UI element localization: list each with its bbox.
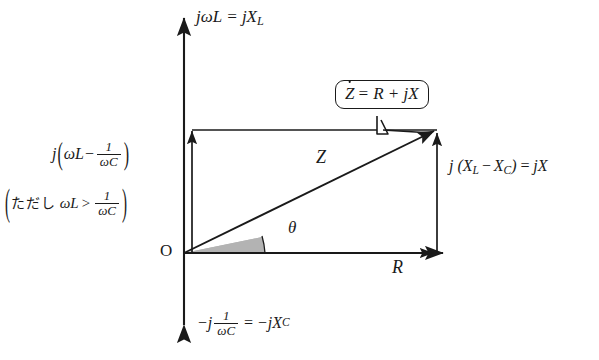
subscript-l: L xyxy=(257,14,264,28)
angle-wedge-hypotenuse-shading xyxy=(184,237,265,253)
xc-symbol: X xyxy=(494,157,504,174)
negative-j-symbol: −j xyxy=(197,315,212,331)
impedance-equation-callout: Z= R + jX xyxy=(335,80,429,109)
subscript-c-2: C xyxy=(282,317,290,329)
j-prefix: j xyxy=(52,146,56,162)
resistance-label: R xyxy=(392,258,403,276)
impedance-vector-arrow xyxy=(184,131,434,253)
impedance-magnitude-label: Z xyxy=(316,148,326,166)
callout-z-symbol: Z xyxy=(345,84,354,103)
subscript-l-2: L xyxy=(473,164,479,176)
reciprocal-omega-c-fraction-3: 1ωC xyxy=(214,309,238,337)
imaginary-negative-axis-label: −j1ωC=−jXC xyxy=(197,309,290,337)
open-paren: ( xyxy=(57,138,62,170)
note-close-paren: ) xyxy=(122,184,127,222)
equals-symbol-2: = xyxy=(520,157,531,174)
tadashi-text: ただし xyxy=(11,196,56,210)
reactance-difference-label: j (XL−XC)=jX xyxy=(449,158,548,177)
greater-than-operator: > xyxy=(82,196,90,211)
fraction-denominator-3: ωC xyxy=(214,324,238,338)
phasor-diagram-canvas: Z= R + jX jωL = jXL j(ωL−1ωC) (ただし ωL>1ω… xyxy=(0,0,599,360)
jx-symbol: jX xyxy=(533,157,547,174)
negative-jxc-symbol: −jX xyxy=(257,315,282,331)
j-open-paren: j ( xyxy=(449,157,463,174)
close-paren-2: ) xyxy=(511,157,516,174)
phase-angle-label: θ xyxy=(288,219,296,236)
imaginary-positive-axis-label: jωL = jXL xyxy=(196,8,264,28)
omega-l-term: ωL xyxy=(64,146,84,162)
origin-label: O xyxy=(160,242,172,259)
equals-symbol: = xyxy=(226,7,237,26)
fraction-numerator: 1 xyxy=(97,140,121,155)
reactance-expression-label: j(ωL−1ωC) xyxy=(52,140,130,168)
z-dot-accent-icon: Z xyxy=(345,84,354,104)
close-paren: ) xyxy=(124,138,129,170)
fraction-denominator: ωC xyxy=(97,155,121,169)
diagram-vector-graphics xyxy=(0,0,599,360)
minus-operator-2: − xyxy=(481,157,492,174)
inductance-symbol: L xyxy=(213,7,222,26)
callout-equation-rest: = R + jX xyxy=(357,84,418,103)
fraction-numerator-3: 1 xyxy=(214,309,238,324)
callout-tail xyxy=(377,116,388,134)
condition-note-label: (ただし ωL>1ωC) xyxy=(4,189,128,217)
omega-symbol: ω xyxy=(201,7,213,26)
xl-symbol: X xyxy=(463,157,473,174)
equals-symbol-3: = xyxy=(243,315,254,331)
jxl-symbol: jX xyxy=(242,7,257,26)
note-open-paren: ( xyxy=(5,184,10,222)
reciprocal-omega-c-fraction-2: 1ωC xyxy=(95,189,119,217)
omega-l-term-2: ωL xyxy=(56,196,79,211)
fraction-denominator-2: ωC xyxy=(95,204,119,218)
reciprocal-omega-c-fraction: 1ωC xyxy=(97,140,121,168)
minus-operator: − xyxy=(84,146,95,162)
fraction-numerator-2: 1 xyxy=(95,189,119,204)
